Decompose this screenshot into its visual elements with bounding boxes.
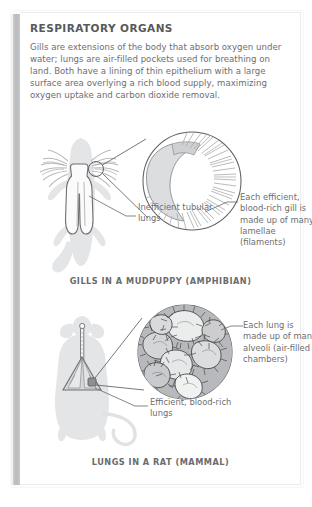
caption-lungs-rat: LUNGS IN A RAT (MAMMAL) [22, 457, 299, 467]
intro-paragraph: Gills are extensions of the body that ab… [30, 41, 288, 101]
page-title: RESPIRATORY ORGANS [30, 22, 292, 34]
label-inefficient-tubular-lungs: Inefficient tubular lungs [138, 202, 226, 225]
figure-lungs-rat: Each lung is made up of many alveoli (ai… [22, 302, 299, 482]
label-gill-lamellae: Each efficient, blood-rich gill is made … [240, 192, 312, 248]
label-efficient-blood-rich-lungs: Efficient, blood-rich lungs [150, 397, 234, 420]
book-binding-strip [13, 14, 20, 485]
label-alveoli: Each lung is made up of many alveoli (ai… [243, 320, 312, 365]
caption-gills-mudpuppy: GILLS IN A MUDPUPPY (AMPHIBIAN) [22, 276, 299, 286]
alveoli-zoom-source-marker [88, 378, 96, 386]
page-header: RESPIRATORY ORGANS Gills are extensions … [30, 22, 292, 101]
figure-gills-mudpuppy: Inefficient tubular lungs Each efficient… [22, 124, 299, 296]
book-page-screenshot: RESPIRATORY ORGANS Gills are extensions … [0, 0, 312, 507]
alveoli-detail-magnifier [136, 305, 232, 404]
